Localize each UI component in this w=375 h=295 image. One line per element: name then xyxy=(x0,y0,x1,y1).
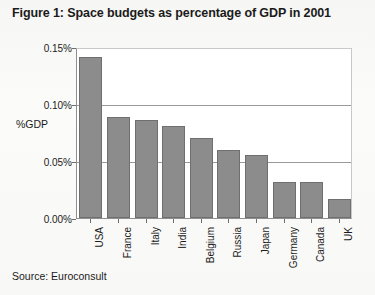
bar-chart: %GDP 0.00%0.05%0.10%0.15% USAFranceItaly… xyxy=(0,26,375,266)
x-axis-tick-mark xyxy=(118,219,119,223)
bar xyxy=(162,126,185,218)
x-axis-tick-mark xyxy=(284,219,285,223)
x-axis-category-label: France xyxy=(122,227,133,258)
bar xyxy=(300,182,323,218)
x-axis-category-label: India xyxy=(177,227,188,249)
bar xyxy=(107,117,130,218)
x-axis-tick-mark xyxy=(201,219,202,223)
y-axis-tick-label: 0.10% xyxy=(32,100,72,111)
bar xyxy=(190,138,213,218)
bar xyxy=(245,155,268,218)
x-axis-tick-mark xyxy=(146,219,147,223)
y-axis-tick-label: 0.15% xyxy=(32,43,72,54)
figure-title: Figure 1: Space budgets as percentage of… xyxy=(12,6,331,20)
bar-series xyxy=(77,49,351,218)
x-axis-category-label: Japan xyxy=(260,227,271,254)
y-axis-tick-label: 0.00% xyxy=(32,214,72,225)
x-axis-tick-mark xyxy=(311,219,312,223)
x-axis-category-label: Russia xyxy=(232,227,243,258)
source-note: Source: Euroconsult xyxy=(12,270,107,282)
bar xyxy=(79,57,102,218)
x-axis-tick-mark xyxy=(256,219,257,223)
x-axis-category-label: Germany xyxy=(288,227,299,268)
y-axis-tick-mark xyxy=(72,48,76,49)
bar xyxy=(135,120,158,218)
x-axis-category-label: Canada xyxy=(315,227,326,262)
x-axis-tick-mark xyxy=(228,219,229,223)
figure-card: Figure 1: Space budgets as percentage of… xyxy=(0,0,375,295)
x-axis-category-label: Italy xyxy=(150,227,161,245)
bar xyxy=(328,199,351,218)
bar xyxy=(217,150,240,218)
plot-area xyxy=(76,48,352,219)
x-axis-category-label: Belgium xyxy=(205,227,216,263)
y-axis-tick-mark xyxy=(72,162,76,163)
y-axis-tick-labels: 0.00%0.05%0.10%0.15% xyxy=(26,48,72,219)
x-axis-tick-mark xyxy=(90,219,91,223)
y-axis-tick-mark xyxy=(72,105,76,106)
x-axis-tick-mark xyxy=(173,219,174,223)
bar xyxy=(273,182,296,218)
x-axis-category-label: UK xyxy=(343,227,354,241)
y-axis-tick-label: 0.05% xyxy=(32,157,72,168)
y-axis-tick-mark xyxy=(72,219,76,220)
x-axis-tick-mark xyxy=(339,219,340,223)
x-axis-category-label: USA xyxy=(94,227,105,248)
